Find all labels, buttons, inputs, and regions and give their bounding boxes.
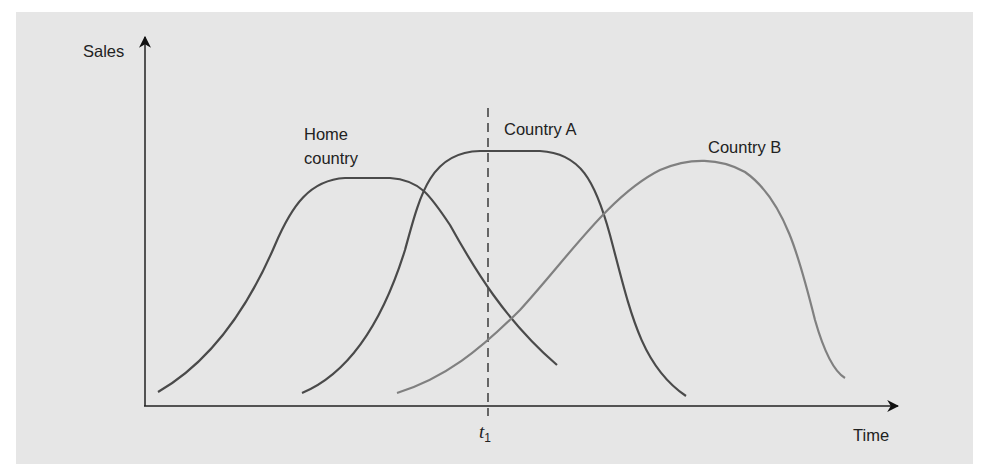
home-country-label-line2: country xyxy=(304,149,359,167)
country-a-label: Country A xyxy=(504,120,576,138)
home-country-label-line1: Home xyxy=(304,125,348,143)
country-a-curve xyxy=(302,151,686,396)
product-lifecycle-chart: Sales Time Home country Country A Countr… xyxy=(0,0,982,472)
country-b-label: Country B xyxy=(708,138,781,156)
t1-label: t1 xyxy=(479,421,491,445)
y-axis-label: Sales xyxy=(83,42,124,60)
home-country-curve xyxy=(158,178,557,392)
x-axis-label: Time xyxy=(853,426,889,444)
